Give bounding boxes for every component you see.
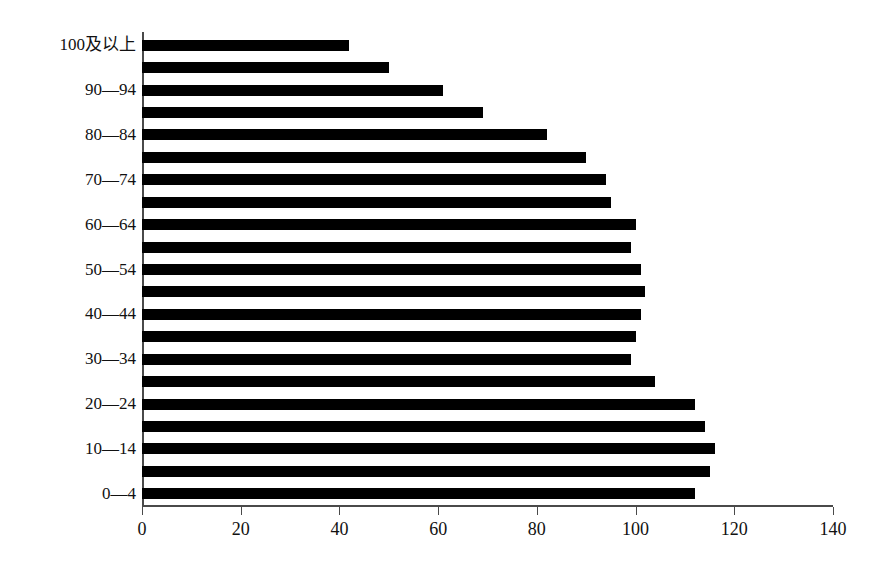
y-axis-tick-label: 10—14 bbox=[85, 440, 136, 457]
y-axis-tick-label: 20—24 bbox=[85, 395, 136, 412]
bar-row bbox=[142, 124, 833, 146]
bar bbox=[142, 488, 695, 499]
bar bbox=[142, 376, 655, 387]
bar-row bbox=[142, 191, 833, 213]
bar bbox=[142, 197, 611, 208]
y-axis-tick-label: 0—4 bbox=[102, 485, 136, 502]
x-axis-line bbox=[142, 505, 833, 507]
bar bbox=[142, 421, 705, 432]
bar-row bbox=[142, 415, 833, 437]
bar bbox=[142, 152, 586, 163]
bar bbox=[142, 354, 631, 365]
bar-row bbox=[142, 393, 833, 415]
y-axis-tick-label: 70—74 bbox=[85, 171, 136, 188]
bar-row bbox=[142, 258, 833, 280]
bar-row bbox=[142, 348, 833, 370]
y-axis-tick-label: 60—64 bbox=[85, 216, 136, 233]
x-axis-tick-label: 100 bbox=[622, 519, 649, 539]
bar bbox=[142, 62, 389, 73]
x-axis-tick bbox=[734, 507, 735, 515]
bar-chart: 100及以上90—9480—8470—7460—6450—5440—4430—3… bbox=[0, 0, 892, 576]
bar bbox=[142, 399, 695, 410]
bar-row bbox=[142, 483, 833, 505]
y-axis-tick-label-group: 100及以上90—9480—8470—7460—6450—5440—4430—3… bbox=[0, 34, 136, 505]
bar bbox=[142, 242, 631, 253]
x-axis-tick bbox=[339, 507, 340, 515]
bar-row bbox=[142, 281, 833, 303]
bar bbox=[142, 309, 641, 320]
x-axis-tick-label: 120 bbox=[721, 519, 748, 539]
x-axis-tick bbox=[636, 507, 637, 515]
bar bbox=[142, 264, 641, 275]
bar-row bbox=[142, 213, 833, 235]
y-axis-tick-label: 90—94 bbox=[85, 81, 136, 98]
x-axis-tick-label: 140 bbox=[820, 519, 847, 539]
bar bbox=[142, 174, 606, 185]
plot-area bbox=[142, 34, 833, 505]
bar-row bbox=[142, 326, 833, 348]
bar-row bbox=[142, 303, 833, 325]
y-axis-tick-label: 50—54 bbox=[85, 261, 136, 278]
y-axis-tick-label: 100及以上 bbox=[60, 36, 137, 53]
bar-row bbox=[142, 34, 833, 56]
x-axis-tick-label: 20 bbox=[232, 519, 250, 539]
bar-row bbox=[142, 370, 833, 392]
bar-row bbox=[142, 236, 833, 258]
bar bbox=[142, 107, 483, 118]
bar bbox=[142, 443, 715, 454]
x-axis-tick-label: 0 bbox=[138, 519, 147, 539]
bar bbox=[142, 466, 710, 477]
bar bbox=[142, 129, 547, 140]
x-axis-tick bbox=[241, 507, 242, 515]
bar-row bbox=[142, 169, 833, 191]
bar bbox=[142, 85, 443, 96]
bar bbox=[142, 219, 636, 230]
x-axis-tick-label: 40 bbox=[330, 519, 348, 539]
x-axis-tick-label: 80 bbox=[528, 519, 546, 539]
y-axis-tick-label: 40—44 bbox=[85, 305, 136, 322]
bar-row bbox=[142, 438, 833, 460]
bar-row bbox=[142, 56, 833, 78]
bar-row bbox=[142, 101, 833, 123]
y-axis-tick-label: 30—34 bbox=[85, 350, 136, 367]
x-axis-tick bbox=[537, 507, 538, 515]
y-axis-tick-label: 80—84 bbox=[85, 126, 136, 143]
bar bbox=[142, 40, 349, 51]
bar bbox=[142, 286, 645, 297]
bar-row bbox=[142, 79, 833, 101]
x-axis-tick bbox=[142, 507, 143, 515]
bar-row bbox=[142, 460, 833, 482]
bar-row bbox=[142, 146, 833, 168]
x-axis-tick-label: 60 bbox=[429, 519, 447, 539]
x-axis-tick bbox=[438, 507, 439, 515]
x-axis-tick bbox=[833, 507, 834, 515]
bar bbox=[142, 331, 636, 342]
